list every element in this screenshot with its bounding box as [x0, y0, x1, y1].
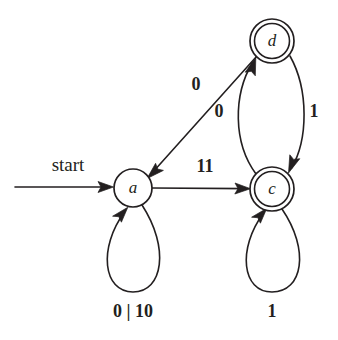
state-machine-canvas: start 11 0 0 1 0 | 1 [0, 0, 338, 340]
start-label: start [52, 154, 85, 175]
state-c-label: c [268, 179, 276, 198]
transition-c-self-loop-path [246, 209, 299, 292]
start-arrow-group: start [15, 154, 114, 192]
transition-d-to-c-arrow-head-icon [289, 155, 300, 173]
transition-c-to-d-label: 0 [215, 101, 224, 121]
state-node-d[interactable]: d [250, 19, 294, 63]
transition-a-to-c: 11 [152, 156, 251, 194]
state-a-label: a [129, 178, 138, 197]
transition-a-to-c-line [152, 188, 245, 189]
transition-a-self-loop-label: 0 | 10 [113, 301, 153, 321]
transition-d-to-c-label: 1 [310, 101, 319, 121]
transition-c-self-loop: 1 [246, 208, 299, 321]
state-node-c[interactable]: c [250, 167, 294, 211]
transition-c-to-d: 0 [215, 58, 257, 175]
state-d-label: d [268, 31, 277, 50]
transition-d-to-c-arc [290, 56, 304, 168]
transition-a-to-c-label: 11 [196, 156, 213, 176]
transition-a-self-loop: 0 | 10 [107, 205, 159, 321]
transition-d-to-a-line [153, 57, 257, 173]
transition-d-to-c: 1 [289, 56, 319, 173]
state-node-a[interactable]: a [114, 169, 152, 207]
automaton-diagram: start 11 0 0 1 0 | 1 [0, 0, 338, 340]
transition-d-to-a-arrow-head-icon [147, 163, 163, 178]
transition-c-to-d-arc [238, 63, 256, 175]
transition-a-self-loop-arrow-head-icon [113, 207, 128, 222]
transition-a-self-loop-path [107, 205, 159, 292]
transition-c-self-loop-label: 1 [268, 301, 277, 321]
transition-d-to-a-label: 0 [192, 74, 201, 94]
